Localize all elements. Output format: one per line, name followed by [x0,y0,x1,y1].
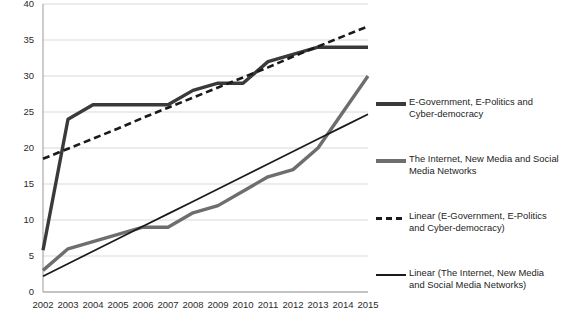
series-lines [43,26,368,276]
x-axis-tick-label: 2002 [29,299,57,310]
legend-item-label: Linear (E-Government, E-Politics and Cyb… [409,210,562,233]
thick-gray-line-icon [376,155,406,167]
thick-dark-line-icon [376,98,406,110]
legend-item-label: Linear (The Internet, New Media and Soci… [409,267,562,290]
x-axis-tick-label: 2004 [79,299,107,310]
x-axis-tick-label: 2014 [329,299,357,310]
y-axis-tick-label: 15 [8,179,34,189]
chart-legend: E-Government, E-Politics and Cyber-democ… [376,96,562,323]
x-axis-tick-label: 2010 [229,299,257,310]
legend-item-label: E-Government, E-Politics and Cyber-democ… [409,96,562,119]
x-axis-tick-label: 2009 [204,299,232,310]
y-axis-tick-label: 0 [8,287,34,297]
y-axis-tick-label: 5 [8,251,34,261]
y-axis-tick-label: 30 [8,71,34,81]
x-axis-tick-label: 2006 [129,299,157,310]
x-axis-tick-label: 2008 [179,299,207,310]
legend-item-linear-internet-new-media[interactable]: Linear (The Internet, New Media and Soci… [376,267,562,323]
x-axis-tick-label: 2005 [104,299,132,310]
legend-item-linear-e-government[interactable]: Linear (E-Government, E-Politics and Cyb… [376,210,562,267]
y-axis-tick-label: 40 [8,0,34,9]
x-axis-tick-label: 2012 [279,299,307,310]
dashed-line-icon [376,212,406,224]
y-axis-tick-label: 10 [8,215,34,225]
legend-item-label: The Internet, New Media and Social Media… [409,153,562,176]
thin-line-icon [376,269,406,281]
x-axis-tick-label: 2013 [304,299,332,310]
series-line [43,114,368,276]
x-axis-tick-label: 2003 [54,299,82,310]
legend-item-e-government[interactable]: E-Government, E-Politics and Cyber-democ… [376,96,562,153]
y-axis-tick-label: 35 [8,35,34,45]
x-axis-tick-label: 2011 [254,299,282,310]
legend-item-internet-new-media[interactable]: The Internet, New Media and Social Media… [376,153,562,210]
y-axis-tick-label: 25 [8,107,34,117]
chart-container: 0510152025303540 20022003200420052006200… [0,0,562,323]
x-axis-tick-label: 2007 [154,299,182,310]
y-axis-tick-label: 20 [8,143,34,153]
